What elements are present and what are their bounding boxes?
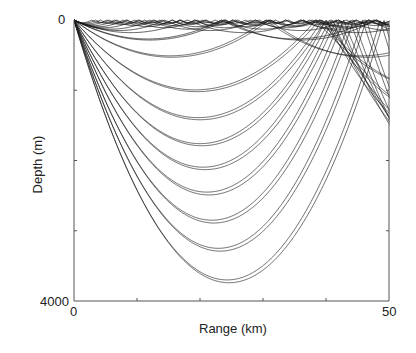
y-tick-label-0: 0: [58, 13, 65, 26]
ray-path: [74, 20, 405, 192]
ray-paths: [74, 20, 405, 283]
x-axis-label: Range (km): [199, 322, 267, 335]
x-tick-label-0: 0: [70, 305, 77, 318]
y-axis-label: Depth (m): [31, 136, 44, 194]
ray-path: [74, 20, 405, 195]
x-tick-label-50: 50: [382, 305, 396, 318]
ray-path: [74, 20, 405, 220]
y-tick-label-4000: 4000: [40, 295, 69, 308]
ray-path: [74, 20, 405, 223]
